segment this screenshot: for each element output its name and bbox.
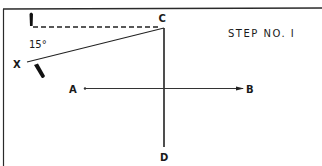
step-title: STEP NO. I [228, 28, 295, 39]
line-x-c [27, 28, 164, 62]
angle-label: 15° [29, 39, 47, 50]
label-a: A [69, 84, 77, 95]
point-a-marker [84, 87, 86, 89]
label-b: B [246, 84, 254, 95]
pencil-slanted-icon [34, 64, 45, 79]
label-d: D [160, 152, 168, 163]
arrow-b-icon [236, 87, 244, 91]
diagram-canvas: C X A B D 15° STEP NO. I [0, 0, 322, 166]
frame-top-border [3, 8, 322, 9]
label-x: X [13, 59, 21, 70]
pencil-vertical-icon [30, 13, 34, 27]
label-c: C [159, 13, 166, 24]
